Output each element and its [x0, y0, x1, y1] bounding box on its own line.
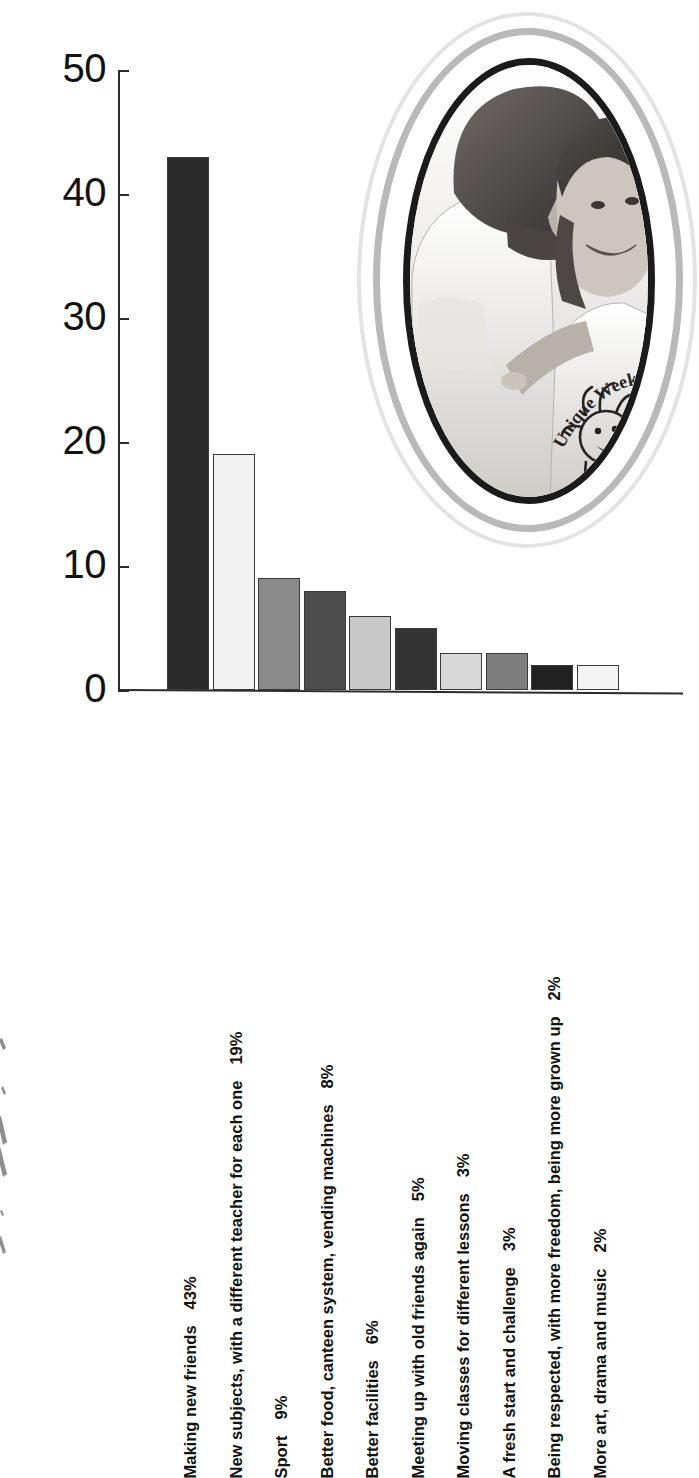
value-label: 2%	[590, 1228, 608, 1252]
category-label: More art, drama and music2%	[591, 1228, 608, 1478]
y-tick-40	[118, 194, 129, 196]
y-tick-label-10: 10	[10, 544, 106, 584]
bar	[440, 653, 482, 690]
bar	[258, 578, 300, 690]
plot-area: 50 40 30 20 10 0	[0, 0, 699, 700]
bar	[213, 454, 255, 690]
y-tick-10	[118, 566, 129, 568]
page-edge-artifact	[0, 1020, 14, 1300]
bar	[486, 653, 528, 690]
category-label-text: Making new friends	[181, 1325, 199, 1478]
category-label-text: New subjects, with a different teacher f…	[226, 1080, 244, 1478]
value-label: 2%	[545, 976, 563, 1000]
category-label-text: More art, drama and music	[590, 1268, 608, 1478]
category-label: A fresh start and challenge3%	[500, 1227, 517, 1478]
y-tick-label-50: 50	[10, 48, 106, 88]
value-label: 3%	[454, 1153, 472, 1177]
bar	[577, 665, 619, 690]
category-label: Moving classes for different lessons3%	[455, 1153, 472, 1478]
bar	[531, 665, 573, 690]
bar	[167, 157, 209, 690]
category-label: Making new friends43%	[182, 1276, 199, 1478]
category-label-text: Being respected, with more freedom, bein…	[545, 1016, 563, 1478]
y-axis-line	[118, 70, 120, 690]
category-label-text: Moving classes for different lessons	[454, 1193, 472, 1478]
value-label: 5%	[408, 1177, 426, 1201]
category-label-text: Meeting up with old friends again	[408, 1217, 426, 1478]
category-label-text: Better facilities	[363, 1360, 381, 1478]
y-tick-label-40: 40	[10, 172, 106, 212]
category-label: Meeting up with old friends again5%	[409, 1177, 426, 1478]
category-label: Better facilities6%	[364, 1320, 381, 1478]
category-label: Better food, canteen system, vending mac…	[318, 1064, 335, 1478]
value-label: 43%	[181, 1276, 199, 1309]
value-label: 3%	[499, 1227, 517, 1251]
value-label: 9%	[272, 1395, 290, 1419]
category-label-text: A fresh start and challenge	[499, 1267, 517, 1478]
bar	[395, 628, 437, 690]
category-label: New subjects, with a different teacher f…	[227, 1031, 244, 1478]
category-label-text: Sport	[272, 1435, 290, 1478]
value-label: 6%	[363, 1320, 381, 1344]
value-label: 19%	[226, 1031, 244, 1064]
category-label: Being respected, with more freedom, bein…	[546, 976, 563, 1478]
category-labels: Making new friends43%New subjects, with …	[0, 698, 699, 1478]
bar	[304, 591, 346, 690]
y-tick-20	[118, 442, 129, 444]
category-label-text: Better food, canteen system, vending mac…	[317, 1104, 335, 1478]
y-tick-30	[118, 318, 129, 320]
y-tick-label-20: 20	[10, 420, 106, 460]
y-tick-0	[118, 690, 129, 692]
y-tick-50	[118, 70, 129, 72]
value-label: 8%	[317, 1064, 335, 1088]
chart-figure: Unique Week 9	[0, 0, 699, 1478]
category-label: Sport9%	[273, 1395, 290, 1478]
y-tick-label-30: 30	[10, 296, 106, 336]
bar	[349, 616, 391, 690]
